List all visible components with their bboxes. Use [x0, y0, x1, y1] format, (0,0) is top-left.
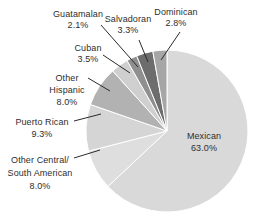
label-cuban-name: Cuban — [58, 43, 118, 54]
label-dominican-pct: 2.8% — [146, 18, 206, 29]
label-mexican-name: Mexican — [174, 130, 234, 142]
pie-chart: Guatamalan 2.1% Salvadoran 3.3% Dominica… — [0, 0, 253, 220]
label-cuban: Cuban 3.5% — [58, 43, 118, 65]
label-mexican: Mexican 63.0% — [174, 130, 234, 154]
label-ocsa-line2: South American — [0, 167, 80, 180]
label-puerto-rican-name: Puerto Rican — [7, 116, 77, 128]
label-ocsa-pct: 8.0% — [0, 180, 80, 193]
label-other-central-south-american: Other Central/ South American 8.0% — [0, 154, 80, 193]
label-ocsa-line1: Other Central/ — [0, 154, 80, 167]
label-other-hispanic-line2: Hispanic — [37, 84, 97, 96]
label-other-hispanic-pct: 8.0% — [37, 96, 97, 108]
label-mexican-pct: 63.0% — [174, 142, 234, 154]
label-puerto-rican-pct: 9.3% — [7, 128, 77, 140]
label-puerto-rican: Puerto Rican 9.3% — [7, 116, 77, 140]
label-cuban-pct: 3.5% — [58, 54, 118, 65]
label-other-hispanic-line1: Other — [37, 72, 97, 84]
label-dominican-name: Dominican — [146, 7, 206, 18]
label-dominican: Dominican 2.8% — [146, 7, 206, 29]
label-other-hispanic: Other Hispanic 8.0% — [37, 72, 97, 108]
